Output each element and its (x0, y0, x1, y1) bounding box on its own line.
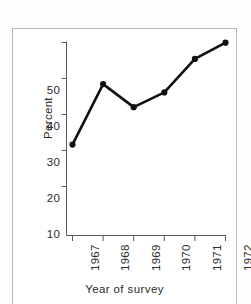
data-point-1970 (161, 89, 167, 95)
data-point-1972 (222, 40, 228, 46)
plot-area (66, 42, 226, 235)
line-chart-svg (66, 42, 226, 235)
x-tick-label-1970: 1970 (180, 245, 193, 289)
x-tick-label-1968: 1968 (119, 245, 132, 289)
data-point-1969 (131, 104, 137, 110)
y-tick-label-30: 30 (34, 157, 60, 169)
series-markers-percent (69, 40, 228, 148)
x-axis-tick-labels: 1967 1968 1969 1970 1971 1972 (66, 238, 226, 282)
series-line-percent (73, 43, 226, 145)
x-axis-title: Year of survey (12, 283, 237, 296)
figure-container: 10 20 30 40 50 Percent (0, 0, 251, 304)
x-tick-label-1967: 1967 (88, 245, 101, 289)
x-tick-label-1969: 1969 (149, 245, 162, 289)
data-point-1967 (69, 142, 75, 148)
data-point-1968 (100, 81, 106, 87)
x-tick-label-1972: 1972 (241, 245, 251, 289)
y-tick-label-20: 20 (34, 193, 60, 205)
y-axis-title: Percent (40, 78, 56, 158)
x-tick-label-1971: 1971 (210, 245, 223, 289)
data-point-1971 (192, 56, 198, 62)
y-tick-label-10: 10 (34, 229, 60, 241)
